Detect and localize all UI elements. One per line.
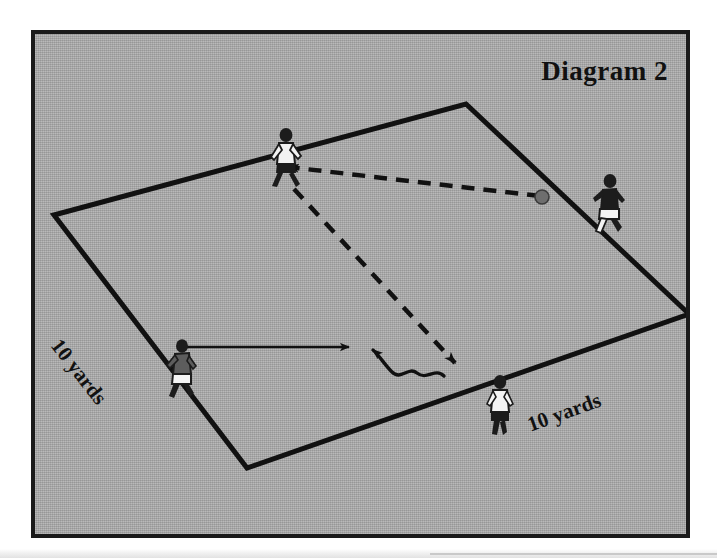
- field-graphics: [35, 34, 686, 534]
- ball-icon: [535, 190, 549, 204]
- page-root: Diagram 2: [0, 0, 717, 558]
- scan-artifact-strip: [0, 549, 717, 558]
- diagram-panel: Diagram 2: [31, 30, 690, 538]
- dashed-pass-arrow: [288, 167, 540, 196]
- page-title: Diagram 2: [541, 56, 668, 87]
- player-bottom-right[interactable]: [478, 373, 522, 441]
- player-top[interactable]: [263, 126, 309, 192]
- player-left[interactable]: [159, 337, 203, 403]
- scan-artifact-line: [430, 553, 717, 555]
- wavy-dribble-arrow: [373, 350, 444, 376]
- player-right[interactable]: [584, 171, 632, 239]
- dashed-run-arrow: [294, 189, 455, 363]
